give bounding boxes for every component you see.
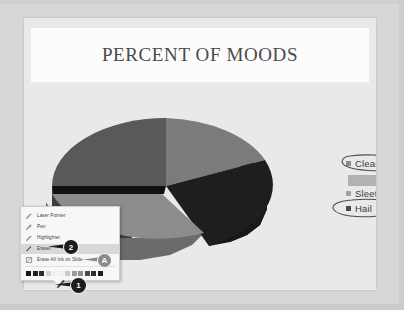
ink-color-swatch[interactable] (72, 271, 77, 276)
ink-color-swatch[interactable] (46, 271, 51, 276)
ink-item-label: Laser Pointer (37, 213, 66, 218)
ink-item-label: Erase All Ink on Slide (37, 257, 83, 262)
legend-item-label: Hail (355, 203, 372, 214)
page-edge-top (0, 0, 404, 4)
ink-item-label: Highlighter (37, 235, 60, 240)
legend-swatch-icon (346, 191, 351, 196)
highlighter-icon (25, 234, 33, 242)
ink-color-swatches[interactable] (21, 268, 119, 278)
pie-slice-clear[interactable] (52, 118, 166, 186)
legend-item-hail[interactable]: Hail (342, 201, 376, 216)
ink-color-swatch[interactable] (39, 271, 44, 276)
ink-color-swatch[interactable] (78, 271, 83, 276)
legend-swatch-icon (346, 206, 351, 211)
callout-badge-a: A (98, 254, 111, 267)
ink-item-label: Pen (37, 224, 45, 229)
page-edge-right (399, 0, 404, 310)
slideshow-screen: PERCENT OF MOODS (0, 0, 404, 310)
ink-color-swatch[interactable] (85, 271, 90, 276)
ink-color-swatch[interactable] (26, 271, 31, 276)
legend-item-clear[interactable]: Clear (342, 156, 376, 171)
legend-item-label: Sleet (355, 188, 376, 199)
laser-pointer-icon (25, 212, 33, 220)
page-edge-bottom (0, 304, 404, 310)
legend-item-sleet[interactable]: Sleet (342, 186, 376, 201)
ink-color-swatch[interactable] (33, 271, 38, 276)
chart-legend: Clear Rain Sleet Hail (342, 156, 376, 216)
pen-cursor-icon (55, 276, 67, 288)
pen-icon (25, 223, 33, 231)
slide-title-placeholder[interactable]: PERCENT OF MOODS (31, 28, 369, 82)
ink-annotation-highlight-rain (348, 175, 376, 186)
erase-all-icon (25, 256, 33, 264)
legend-item-rain[interactable]: Rain (342, 171, 376, 186)
legend-swatch-icon (346, 161, 351, 166)
callout-badge-1: 1 (71, 278, 86, 293)
ink-item-pen[interactable]: Pen (21, 222, 119, 233)
callout-badge-2: 2 (64, 240, 78, 254)
ink-item-label: Eraser (37, 246, 51, 251)
ink-color-swatch[interactable] (91, 271, 96, 276)
eraser-icon (25, 245, 33, 253)
ink-item-laser-pointer[interactable]: Laser Pointer (21, 211, 119, 222)
page-title: PERCENT OF MOODS (102, 44, 298, 66)
ink-color-swatch[interactable] (98, 271, 103, 276)
legend-item-label: Clear (355, 158, 376, 169)
